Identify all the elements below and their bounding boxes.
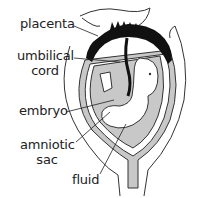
placenta-leader [74,26,98,36]
label-amniotic: amniotic [20,138,74,152]
embryo-diagram: placenta umbilical cord embryo amniotic … [0,0,205,198]
label-umbilical: umbilical [17,49,73,63]
label-placenta: placenta [20,17,75,31]
label-sac: sac [20,153,74,167]
label-cord: cord [17,64,73,78]
label-embryo: embryo [19,104,68,118]
uterus-outline-top [80,8,150,16]
label-fluid: fluid [72,173,99,187]
embryo-eye [149,73,151,75]
